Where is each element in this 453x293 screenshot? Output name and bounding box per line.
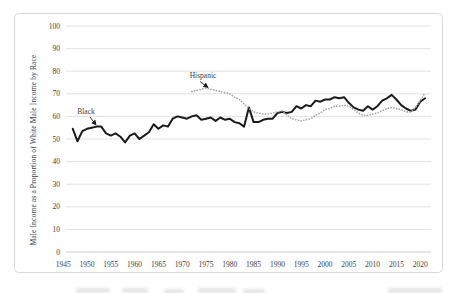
x-tick-label: 1960 [127, 260, 142, 269]
x-tick-label: 1965 [151, 260, 166, 269]
x-tick-label: 2020 [413, 260, 428, 269]
x-tick-label: 1950 [80, 260, 95, 269]
x-tick-label: 1970 [175, 260, 190, 269]
y-tick-label: 80 [53, 67, 61, 76]
x-tick-label: 1955 [103, 260, 118, 269]
y-tick-label: 40 [53, 157, 61, 166]
y-tick-label: 10 [53, 225, 61, 234]
x-tick-label: 1975 [199, 260, 214, 269]
x-tick-label: 2010 [365, 260, 380, 269]
annotation-black-label: Black [77, 107, 95, 116]
y-tick-label: 20 [53, 202, 61, 211]
x-tick-label: 1980 [222, 260, 237, 269]
y-tick-label: 100 [49, 22, 61, 31]
x-tick-label: 2015 [389, 260, 404, 269]
income-ratio-line-chart: 0102030405060708090100194519501955196019… [0, 0, 453, 293]
x-tick-label: 1995 [294, 260, 309, 269]
x-tick-label: 1945 [56, 260, 71, 269]
y-tick-label: 0 [56, 248, 60, 257]
y-axis-title: Male Income as a Proportion of White Mal… [29, 54, 38, 245]
annotation-hispanic-label: Hispanic [190, 71, 217, 80]
y-tick-label: 60 [53, 112, 61, 121]
x-tick-label: 1985 [246, 260, 261, 269]
y-tick-label: 50 [53, 135, 61, 144]
x-tick-label: 2000 [318, 260, 333, 269]
chart-border [15, 14, 443, 273]
y-tick-label: 70 [53, 89, 61, 98]
chart-frame: 0102030405060708090100194519501955196019… [0, 0, 453, 293]
figure-screenshot: 0102030405060708090100194519501955196019… [0, 0, 453, 293]
y-tick-label: 90 [53, 44, 61, 53]
x-tick-label: 2005 [341, 260, 356, 269]
x-tick-label: 1990 [270, 260, 285, 269]
y-tick-label: 30 [53, 180, 61, 189]
